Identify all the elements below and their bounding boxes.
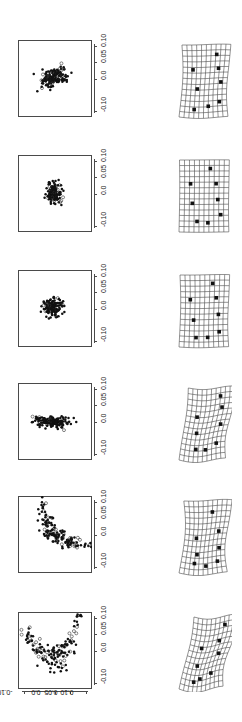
landmark-point [211, 282, 215, 286]
landmark-point [189, 182, 193, 186]
landmark-point [218, 100, 222, 104]
landmark-point [217, 639, 221, 643]
landmark-point [217, 66, 221, 70]
landmark-point [214, 182, 218, 186]
landmark-point [220, 405, 224, 409]
landmark-point [195, 553, 199, 557]
deformation-grid-6 [176, 614, 232, 692]
axis-tick-label: 0.05 [100, 394, 107, 407]
scatter-panel-5: -0.100.00.050.10 [0, 496, 110, 573]
axis-tick-label: 0.0 [100, 185, 107, 194]
landmark-point [204, 564, 208, 568]
axis-tick [94, 405, 97, 406]
axis-tick [94, 161, 97, 162]
axis-tick [94, 194, 97, 195]
scatter-panel-3: -0.100.00.050.10 [0, 270, 110, 347]
landmark-point [211, 510, 215, 514]
axis-tick-label: -0.10 [0, 689, 15, 696]
vertical-axis: -0.100.00.050.10 [94, 270, 110, 347]
axis-tick-label: 0.10 [100, 607, 107, 620]
axis-tick [94, 422, 97, 423]
axis-tick [94, 683, 97, 684]
landmark-point [193, 562, 197, 566]
landmark-point [191, 68, 195, 72]
axis-tick [94, 341, 97, 342]
axis-tick [94, 79, 97, 80]
axis-tick [86, 691, 87, 694]
axis-tick-label: -0.10 [100, 212, 107, 227]
axis-tick-label: 0.0 [100, 642, 107, 651]
axis-tick-label: 0.05 [100, 51, 107, 64]
landmark-point [191, 202, 195, 206]
landmark-point [192, 108, 196, 112]
deformation-grid-panel-2 [176, 157, 232, 235]
landmark-point [219, 394, 223, 398]
deformation-grid-panel-5 [176, 498, 232, 576]
axis-tick-label: -0.10 [100, 553, 107, 568]
landmark-point [219, 422, 223, 426]
deformation-grid-4 [176, 385, 232, 463]
axis-tick [94, 62, 97, 63]
landmark-point [195, 432, 199, 436]
axis-tick [94, 276, 97, 277]
axis-tick-label: 0.0 [100, 413, 107, 422]
axis-tick [94, 226, 97, 227]
scatter-points [18, 40, 92, 117]
axis-tick-label: 0.10 [57, 689, 77, 696]
vertical-axis: -0.100.00.050.10 [94, 383, 110, 460]
axis-tick-label: 0.0 [100, 526, 107, 535]
landmark-point [195, 536, 199, 540]
axis-tick [94, 634, 97, 635]
landmark-point [200, 647, 204, 651]
landmark-point [214, 441, 218, 445]
axis-tick-label: 0.10 [100, 265, 107, 278]
axis-tick [24, 691, 25, 694]
deformation-grid-panel-4 [176, 385, 232, 463]
scatter-points [18, 155, 92, 232]
landmark-point [209, 167, 213, 171]
axis-tick-label: 0.05 [100, 166, 107, 179]
axis-tick-label: -0.10 [100, 327, 107, 342]
scatter-points [18, 383, 92, 460]
scatter-panel-2: -0.100.00.050.10 [0, 155, 110, 232]
horizontal-axis: -0.100.00.050.10 [18, 691, 92, 705]
landmark-point [192, 680, 196, 684]
landmark-point [214, 296, 218, 300]
landmark-point [194, 448, 198, 452]
axis-tick [94, 651, 97, 652]
landmark-point [206, 336, 210, 340]
landmark-point [217, 330, 221, 334]
axis-tick [94, 292, 97, 293]
landmark-point [198, 677, 202, 681]
deformation-grid-panel-1 [176, 42, 232, 120]
vertical-axis: -0.100.00.050.10 [94, 155, 110, 232]
scatter-panel-1: -0.100.00.050.10 [0, 40, 110, 117]
axis-tick [94, 454, 97, 455]
deformation-grid-panel-6 [176, 614, 232, 692]
landmark-point [189, 298, 193, 302]
landmark-point [217, 529, 221, 533]
axis-tick [94, 389, 97, 390]
landmark-point [216, 198, 220, 202]
axis-tick-label: 0.10 [100, 378, 107, 391]
axis-tick-label: -0.10 [100, 97, 107, 112]
landmark-point [195, 415, 199, 419]
landmark-point [217, 313, 221, 317]
scatter-points [18, 270, 92, 347]
scatter-panel-4: -0.100.00.050.10 [0, 383, 110, 460]
landmark-point [194, 336, 198, 340]
vertical-axis: -0.100.00.050.10 [94, 40, 110, 117]
morphometrics-figure: -0.100.00.050.10-0.100.00.050.10-0.100.0… [0, 0, 242, 722]
landmark-point [219, 213, 223, 217]
scatter-points [18, 612, 92, 689]
axis-tick [94, 518, 97, 519]
axis-tick-label: 0.10 [100, 35, 107, 48]
deformation-grid-3 [176, 272, 232, 350]
scatter-panel-6: -0.100.00.050.10-0.100.00.050.10 [0, 612, 110, 689]
axis-tick-label: 0.05 [100, 507, 107, 520]
landmark-point [216, 559, 220, 563]
axis-tick [94, 177, 97, 178]
axis-tick-label: 0.05 [100, 281, 107, 294]
landmark-point [215, 53, 219, 57]
scatter-points [18, 496, 92, 573]
